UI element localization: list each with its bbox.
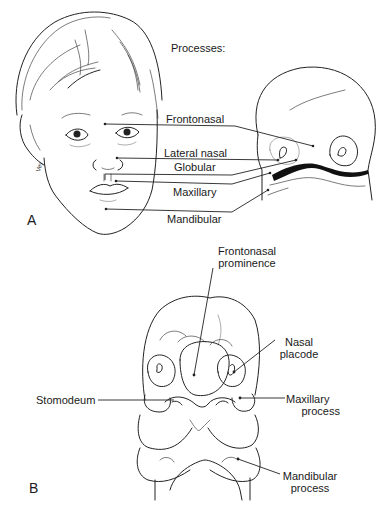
artist-signature: Vey — [35, 161, 43, 172]
child-face-drawing: Vey — [16, 12, 162, 234]
label-line: Maxillary — [286, 393, 340, 405]
label-line: prominence — [212, 257, 282, 269]
label-lateral-nasal: Lateral nasal — [164, 147, 227, 159]
panel-label-a: A — [27, 212, 36, 228]
label-stomodeum: Stomodeum — [36, 394, 95, 406]
label-line: process — [282, 482, 338, 494]
label-maxillary: Maxillary — [173, 186, 216, 198]
label-mandibular-process: Mandibular process — [282, 470, 338, 494]
embryo-face-drawing-a — [256, 67, 375, 200]
label-line: placode — [272, 348, 326, 360]
label-line: Mandibular — [282, 470, 338, 482]
label-mandibular: Mandibular — [167, 213, 221, 225]
label-nasal-placode: Nasal placode — [272, 336, 326, 360]
label-maxillary-process: Maxillary process — [286, 393, 340, 417]
label-frontonasal-prominence: Frontonasal prominence — [212, 245, 282, 269]
label-line: process — [286, 405, 340, 417]
label-line: Nasal — [272, 336, 326, 348]
leader-lines-b — [98, 268, 285, 474]
processes-heading: Processes: — [171, 42, 225, 54]
label-line: Frontonasal — [212, 245, 282, 257]
label-globular: Globular — [174, 161, 216, 173]
label-frontonasal: Frontonasal — [166, 113, 224, 125]
panel-label-b: B — [29, 480, 38, 496]
diagram-artwork: Vey — [0, 0, 386, 516]
